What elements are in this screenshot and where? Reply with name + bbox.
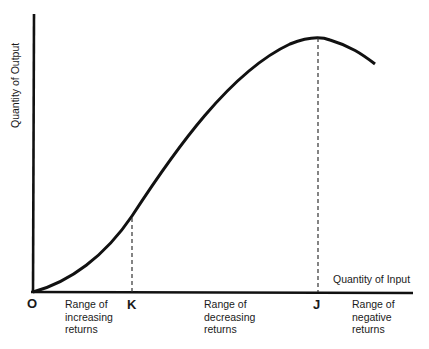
total-product-curve [33, 38, 375, 292]
range-increasing-returns: Range of increasing returns [65, 298, 113, 336]
range-negative-returns: Range of negative returns [352, 298, 395, 336]
total-product-chart [0, 0, 429, 349]
x-axis-label: Quantity of Input [333, 273, 410, 285]
k-label: K [127, 297, 136, 312]
origin-label: O [27, 296, 37, 311]
y-axis [33, 14, 34, 293]
j-label: J [313, 297, 320, 312]
range-decreasing-returns: Range of decreasing returns [204, 298, 255, 336]
x-axis [31, 292, 413, 293]
